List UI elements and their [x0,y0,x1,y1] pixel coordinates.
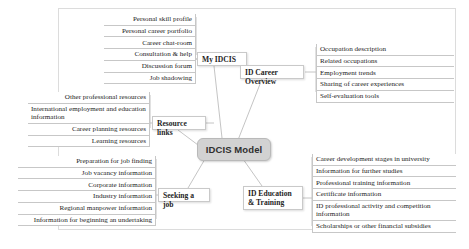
leaf-item[interactable]: Regional manpower information [18,203,156,215]
leaf-item[interactable]: Certificate information [312,189,456,201]
leaf-item[interactable]: Career planning resources [28,124,150,136]
mind-map-diagram: IDCIS Model My IDCIS Personal skill prof… [0,0,469,249]
leaf-item[interactable]: Employment trends [316,67,454,79]
leaf-group-resource-links: Other professional resources Internation… [28,92,150,147]
leaf-group-my-idcis: Personal skill profile Personal career p… [104,14,196,84]
leaf-item[interactable]: Other professional resources [28,92,150,104]
leaf-item[interactable]: Information for beginning an undertaking [18,215,156,227]
leaf-item[interactable]: Information for further studies [312,166,456,178]
leaf-item[interactable]: Industry information [18,191,156,203]
leaf-group-id-career-overview: Occupation description Related occupatio… [316,44,454,103]
leaf-item[interactable]: ID professional activity and competition… [312,201,456,221]
center-node-idcis-model[interactable]: IDCIS Model [197,138,271,161]
leaf-item[interactable]: Corporate information [18,179,156,191]
leaf-item[interactable]: Sharing of career experiences [316,79,454,91]
leaf-item[interactable]: Related occupations [316,56,454,68]
leaf-item[interactable]: Job shadowing [104,73,196,85]
leaf-item[interactable]: Preparation for job finding [18,156,156,168]
branch-label-my-idcis[interactable]: My IDCIS [197,52,247,66]
leaf-item[interactable]: Personal skill profile [104,14,196,26]
leaf-item[interactable]: Learning resources [28,136,150,148]
leaf-item[interactable]: International employment and education i… [28,104,150,124]
leaf-item[interactable]: Career development stages in university [312,154,456,166]
leaf-item[interactable]: Job vacancy information [18,168,156,180]
leaf-group-id-education-training: Career development stages in university … [312,154,456,233]
leaf-item[interactable]: Professional training information [312,177,456,189]
leaf-item[interactable]: Consultation & help [104,49,196,61]
leaf-item[interactable]: Scholarships or other financial subsidie… [312,221,456,233]
leaf-item[interactable]: Self-evaluation tools [316,91,454,103]
leaf-item[interactable]: Personal career portfolio [104,26,196,38]
leaf-item[interactable]: Career chat-room [104,37,196,49]
branch-label-id-education-training[interactable]: ID Education & Training [243,186,303,210]
branch-label-resource-links[interactable]: Resource links [152,116,206,130]
branch-label-seeking-a-job[interactable]: Seeking a job [158,188,210,202]
leaf-item[interactable]: Discussion forum [104,61,196,73]
leaf-group-seeking-a-job: Preparation for job finding Job vacancy … [18,156,156,226]
leaf-item[interactable]: Occupation description [316,44,454,56]
branch-label-id-career-overview[interactable]: ID Career Overview [240,65,304,79]
